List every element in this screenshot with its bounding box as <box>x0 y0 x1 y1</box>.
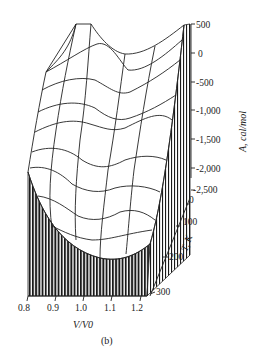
t-tick-label: 0 <box>189 195 194 205</box>
z-tick-label: -1,000 <box>196 106 221 116</box>
t-tick-label: 300 <box>156 287 171 297</box>
x-tick-label: 1.1 <box>104 303 116 313</box>
z-tick-label: -500 <box>196 78 214 88</box>
z-axis-label: A, cal/mol <box>237 111 248 153</box>
x-tick-label: 0.8 <box>18 303 30 313</box>
z-tick-label: -2,500 <box>193 185 218 195</box>
x-axis: 0.8 0.9 1.0 1.1 1.2 V/V0 <box>18 296 147 330</box>
x-tick-label: 0.9 <box>47 303 59 313</box>
figure-caption: (b) <box>101 335 113 347</box>
t-tick-label: 200 <box>169 252 184 262</box>
x-tick-label: 1.2 <box>131 303 143 313</box>
z-axis: 500 0 -500 -1,000 -1,500 -2,000 -2,500 A… <box>191 20 248 195</box>
t-tick-label: 100 <box>183 217 198 227</box>
x-tick-label: 1.0 <box>75 303 87 313</box>
z-tick-label: 500 <box>196 20 211 30</box>
z-tick-label: 0 <box>198 49 203 59</box>
z-tick-label: -2,000 <box>196 164 221 174</box>
x-axis-label: V/V0 <box>73 319 93 330</box>
surface-plot: 500 0 -500 -1,000 -1,500 -2,000 -2,500 A… <box>0 0 255 347</box>
iso-volume-curves <box>50 24 155 258</box>
z-tick-label: -1,500 <box>196 135 221 145</box>
